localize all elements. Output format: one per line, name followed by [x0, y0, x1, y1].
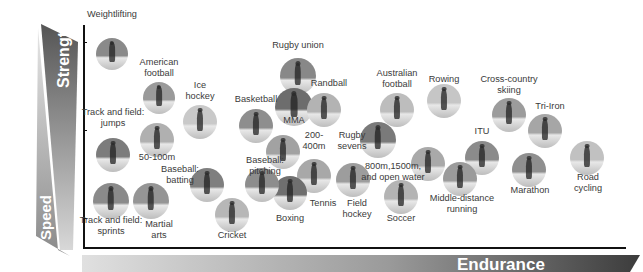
athlete-figure-icon	[527, 156, 532, 161]
sport-label-rugby-union: Rugby union	[272, 40, 324, 51]
athlete-figure-icon	[442, 87, 447, 92]
sport-label-ice-hockey: Ice	[194, 80, 206, 91]
athlete-figure-icon	[230, 201, 235, 206]
sport-label-road-cycling: Road	[577, 172, 599, 183]
sport-label-tri-iron: Tri-Iron	[535, 101, 564, 112]
sport-label-martial-arts: arts	[151, 230, 166, 241]
athlete-figure-icon	[229, 203, 235, 224]
athlete-figure-icon	[506, 103, 512, 124]
sport-photo-randball	[307, 93, 341, 127]
sport-label-marathon: Marathon	[511, 185, 550, 196]
athlete-figure-icon	[480, 144, 485, 149]
sport-label-itu: ITU	[475, 126, 490, 137]
athlete-figure-icon	[295, 61, 300, 66]
x-axis-line	[83, 247, 626, 249]
athlete-figure-icon	[198, 108, 203, 113]
y-axis-tick	[84, 42, 87, 43]
athlete-figure-icon	[108, 188, 114, 210]
athlete-figure-icon	[205, 171, 210, 176]
sport-label-cross-country-skiing: skiing	[497, 85, 521, 96]
athlete-figure-icon	[288, 179, 293, 184]
sport-photo-martial-arts	[133, 183, 169, 219]
athlete-figure-icon	[458, 165, 463, 170]
sport-label-tennis: Tennis	[310, 198, 337, 209]
sport-photo-american-football	[143, 82, 175, 114]
sport-label-randball: Randball	[311, 78, 347, 89]
sport-photo-rugby-sevens	[360, 122, 396, 158]
athlete-figure-icon	[321, 98, 327, 119]
sport-label-cross-country-skiing: Cross-country	[480, 74, 537, 85]
athlete-figure-icon	[154, 128, 160, 149]
sport-photo-rowing	[427, 84, 461, 118]
athlete-figure-icon	[311, 164, 317, 185]
athlete-figure-icon	[441, 89, 447, 110]
sport-label-rugby-sevens: Rugby	[339, 130, 366, 141]
athlete-figure-icon	[287, 181, 293, 202]
athlete-figure-icon	[254, 112, 259, 117]
sport-label-middle-distance-running: Middle-distance	[430, 193, 494, 204]
sport-label-australian-football: Australian	[377, 68, 418, 79]
sport-label-50-100m: 50-100m	[139, 152, 175, 163]
athlete-figure-icon	[197, 110, 203, 131]
athlete-figure-icon	[111, 141, 116, 146]
sport-label-basketball: Basketball	[235, 94, 277, 105]
athlete-figure-icon	[312, 162, 317, 167]
athlete-figure-icon	[148, 186, 153, 191]
athlete-figure-icon	[253, 114, 259, 135]
sport-photo-marathon	[512, 153, 546, 187]
athlete-figure-icon	[110, 143, 116, 164]
sport-photo-weightlifting	[96, 38, 128, 70]
sport-label-middle-distance-running: running	[447, 204, 478, 215]
sport-label-baseball-batting: batting	[166, 175, 194, 186]
athlete-figure-icon	[351, 166, 356, 171]
athlete-figure-icon	[322, 96, 327, 101]
sport-label-baseball-pitching: Baseball:	[246, 155, 284, 166]
sport-label-200-400m: 400m	[303, 141, 326, 152]
sport-photo-cross-country-skiing	[492, 98, 526, 132]
sport-photo-tri-iron	[528, 114, 562, 148]
athlete-figure-icon	[542, 119, 548, 140]
sport-label-martial-arts: Martial	[145, 219, 173, 230]
sport-label-track-field-jumps: jumps	[101, 118, 126, 129]
sport-photo-road-cycling	[570, 141, 604, 175]
sport-label-field-hockey: Field	[347, 198, 367, 209]
athlete-figure-icon	[291, 93, 298, 117]
sport-label-800m-1500m-open-water: 800m,1500m,	[365, 161, 421, 172]
athlete-figure-icon	[281, 138, 286, 143]
sport-label-800m-1500m-open-water: and open water	[361, 172, 424, 183]
athlete-figure-icon	[155, 126, 160, 131]
sport-photo-track-field-jumps	[96, 138, 130, 172]
athlete-figure-icon	[156, 86, 162, 106]
athlete-figure-icon	[526, 158, 532, 179]
athlete-figure-icon	[394, 98, 400, 119]
athlete-figure-icon	[543, 117, 548, 122]
sport-photo-soccer	[384, 180, 418, 214]
athlete-figure-icon	[507, 101, 512, 106]
sport-label-soccer: Soccer	[387, 213, 416, 224]
sport-label-road-cycling: cycling	[574, 183, 602, 194]
sport-label-baseball-pitching: pitching	[249, 166, 281, 177]
sport-photo-australian-football	[380, 93, 414, 127]
athlete-figure-icon	[109, 42, 115, 62]
athlete-figure-icon	[295, 63, 301, 85]
y-axis-tick	[84, 130, 87, 131]
athlete-figure-icon	[395, 96, 400, 101]
athlete-figure-icon	[398, 185, 404, 206]
athlete-figure-icon	[148, 188, 154, 210]
sport-label-200-400m: 200-	[305, 130, 323, 141]
sport-photo-ice-hockey	[183, 105, 217, 139]
sport-label-baseball-batting: Baseball:	[161, 164, 199, 175]
athlete-figure-icon	[108, 186, 113, 191]
endurance-arrow	[82, 255, 640, 272]
athlete-figure-icon	[426, 150, 431, 155]
sport-label-track-field-sprints: Track and field:	[80, 215, 142, 226]
sport-label-american-football: American	[140, 57, 179, 68]
sport-label-ice-hockey: hockey	[185, 91, 214, 102]
sport-label-american-football: football	[144, 68, 174, 79]
athlete-figure-icon	[585, 144, 590, 149]
athlete-figure-icon	[375, 127, 381, 149]
athlete-figure-icon	[399, 183, 404, 188]
sport-label-track-field-sprints: sprints	[97, 226, 124, 237]
athlete-figure-icon	[204, 173, 210, 194]
endurance-axis-label: Endurance	[457, 255, 545, 272]
